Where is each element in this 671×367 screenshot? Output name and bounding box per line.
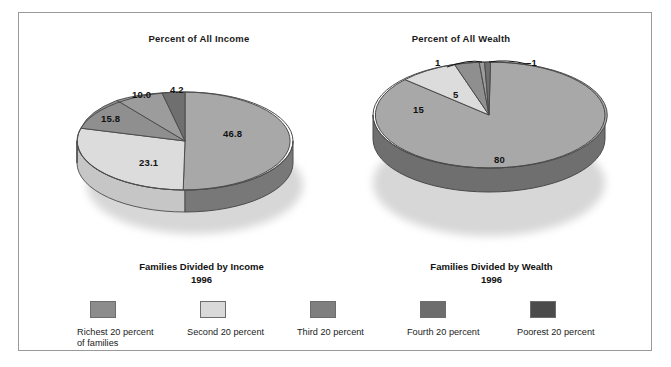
- legend-item-poorest: Poorest 20 percent: [517, 301, 625, 338]
- legend-item-richest: Richest 20 percent of families: [77, 301, 185, 349]
- income-pie-chart: 46.8 23.1 15.8 10.0 4.2: [63, 53, 319, 243]
- wealth-label-third: 5: [453, 89, 458, 100]
- legend-label-fourth: Fourth 20 percent: [407, 327, 515, 338]
- income-label-poorest: 4.2: [170, 84, 184, 95]
- wealth-caption-line1: Families Divided by Wealth: [369, 261, 614, 274]
- legend-item-second: Second 20 percent: [187, 301, 295, 338]
- income-label-fourth: 10.0: [132, 89, 151, 100]
- income-caption-year: 1996: [79, 274, 324, 287]
- legend-swatch-poorest: [530, 301, 556, 318]
- wealth-label-richest: 80: [494, 154, 505, 165]
- figure-frame: Percent of All Income: [18, 12, 652, 351]
- figure-container: Percent of All Income: [0, 0, 671, 367]
- income-caption-line1: Families Divided by Income: [79, 261, 324, 274]
- legend-label-richest: Richest 20 percent of families: [77, 327, 185, 349]
- income-label-second: 23.1: [139, 157, 158, 168]
- wealth-chart-title: Percent of All Wealth: [371, 33, 551, 44]
- wealth-label-fourth: 1: [435, 57, 440, 68]
- income-label-richest: 46.8: [223, 128, 242, 139]
- legend-label-second: Second 20 percent: [187, 327, 295, 338]
- legend-label-third: Third 20 percent: [297, 327, 405, 338]
- wealth-pie-chart: 80 15 5 1 –1: [349, 53, 621, 253]
- legend-item-fourth: Fourth 20 percent: [407, 301, 515, 338]
- legend-item-third: Third 20 percent: [297, 301, 405, 338]
- wealth-caption: Families Divided by Wealth 1996: [369, 261, 614, 286]
- wealth-caption-year: 1996: [369, 274, 614, 287]
- legend-swatch-richest: [90, 301, 116, 318]
- wealth-label-poorest: –1: [526, 57, 537, 68]
- legend-swatch-fourth: [420, 301, 446, 318]
- income-caption: Families Divided by Income 1996: [79, 261, 324, 286]
- income-label-third: 15.8: [101, 113, 120, 124]
- income-pie-svg: [63, 53, 319, 243]
- legend-swatch-third: [310, 301, 336, 318]
- legend-label-poorest: Poorest 20 percent: [517, 327, 625, 338]
- legend-swatch-second: [200, 301, 226, 318]
- wealth-label-second: 15: [413, 104, 424, 115]
- income-chart-title: Percent of All Income: [119, 33, 279, 44]
- wealth-pie-svg: [349, 53, 621, 253]
